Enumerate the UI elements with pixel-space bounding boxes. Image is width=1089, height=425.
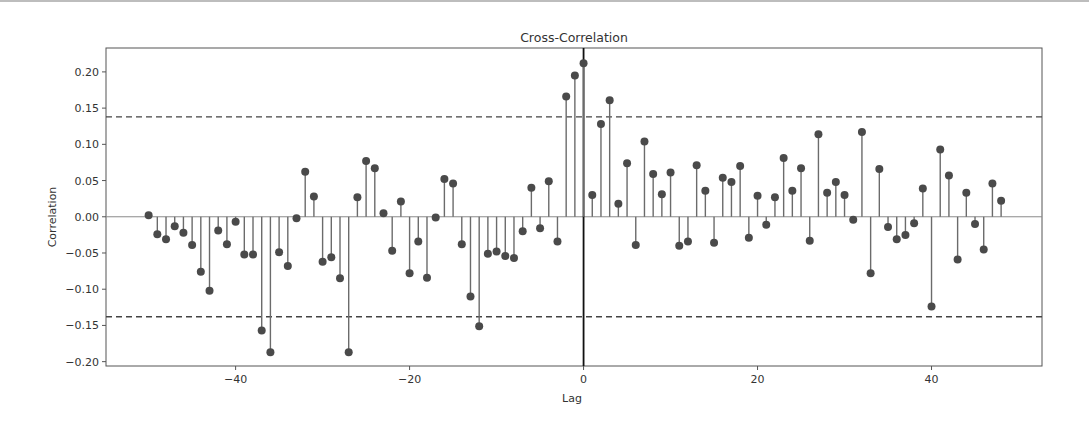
stem-marker — [449, 179, 457, 187]
stem-marker — [545, 177, 553, 185]
stem — [884, 217, 892, 231]
stem-marker — [945, 171, 953, 179]
stem — [275, 217, 283, 256]
stem — [841, 191, 849, 217]
stem-marker — [310, 192, 318, 200]
chart-title: Cross-Correlation — [520, 30, 628, 45]
stem-marker — [214, 227, 222, 235]
stem-marker — [319, 258, 327, 266]
stem-marker — [954, 256, 962, 264]
stem-marker — [884, 223, 892, 231]
stem — [432, 214, 440, 222]
stem — [240, 217, 248, 259]
stem-marker — [745, 234, 753, 242]
stem-marker — [188, 241, 196, 249]
stem — [223, 217, 231, 249]
stem-marker — [910, 219, 918, 227]
stem-marker — [727, 178, 735, 186]
stem — [249, 217, 257, 259]
stem-marker — [997, 197, 1005, 205]
stem-marker — [397, 198, 405, 206]
stem — [379, 209, 387, 217]
stem-marker — [197, 268, 205, 276]
stem — [988, 179, 996, 216]
stem — [353, 193, 361, 217]
stem — [232, 217, 240, 226]
stem-marker — [893, 235, 901, 243]
stem — [449, 179, 457, 216]
y-tick-label: −0.05 — [65, 247, 99, 260]
stem-marker — [823, 189, 831, 197]
stem-marker — [536, 224, 544, 232]
stem — [493, 217, 501, 256]
stem-marker — [614, 200, 622, 208]
stem — [536, 217, 544, 233]
stem-marker — [988, 179, 996, 187]
stem-marker — [806, 237, 814, 245]
stem — [484, 217, 492, 258]
x-tick-label: 40 — [925, 373, 939, 386]
stem — [701, 187, 709, 217]
stem — [910, 217, 918, 228]
stem — [936, 145, 944, 216]
stem — [319, 217, 327, 266]
stem — [658, 190, 666, 216]
stem — [901, 217, 909, 239]
stem — [266, 217, 274, 356]
stem-marker — [179, 229, 187, 237]
stem-marker — [606, 96, 614, 104]
stem-marker — [849, 216, 857, 224]
stem-marker — [788, 187, 796, 195]
y-tick-label: 0.10 — [75, 138, 100, 151]
stem-marker — [145, 211, 153, 219]
stem-marker — [484, 250, 492, 258]
stem — [693, 161, 701, 216]
stem — [797, 164, 805, 217]
stem-marker — [571, 72, 579, 80]
stem-marker — [423, 274, 431, 282]
stem — [710, 217, 718, 247]
stem-marker — [432, 214, 440, 222]
stem — [954, 217, 962, 264]
stem — [780, 154, 788, 217]
stem — [301, 168, 309, 217]
stem-marker — [867, 269, 875, 277]
stem — [649, 170, 657, 217]
stem-marker — [675, 242, 683, 250]
stem-marker — [701, 187, 709, 195]
y-axis-label: Correlation — [46, 187, 59, 248]
stem — [945, 171, 953, 216]
stem — [762, 217, 770, 229]
stem — [510, 217, 518, 262]
stem — [362, 157, 370, 217]
stem-marker — [301, 168, 309, 176]
stem — [414, 217, 422, 246]
x-tick-label: −40 — [224, 373, 247, 386]
stem-marker — [519, 227, 527, 235]
x-tick-label: 20 — [751, 373, 765, 386]
stem-marker — [388, 247, 396, 255]
stem-marker — [919, 185, 927, 193]
stem — [597, 120, 605, 217]
stem — [736, 162, 744, 217]
stem — [293, 214, 301, 222]
stem-marker — [493, 248, 501, 256]
stem — [145, 211, 153, 219]
stem-marker — [762, 221, 770, 229]
stem — [162, 217, 170, 243]
y-tick-label: −0.15 — [65, 319, 99, 332]
stem-marker — [466, 292, 474, 300]
stem — [788, 187, 796, 217]
stem-marker — [223, 240, 231, 248]
stem — [171, 217, 179, 230]
stem-marker — [771, 193, 779, 201]
stem — [971, 217, 979, 228]
stem — [606, 96, 614, 217]
stem — [823, 189, 831, 217]
y-axis: −0.20−0.15−0.10−0.050.000.050.100.150.20 — [65, 66, 106, 369]
y-tick-label: −0.10 — [65, 283, 99, 296]
stem — [640, 137, 648, 216]
stem — [997, 197, 1005, 217]
stem — [719, 174, 727, 217]
stem-marker — [814, 130, 822, 138]
